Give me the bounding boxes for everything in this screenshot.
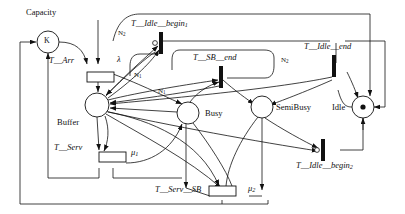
place-semibusy[interactable] (251, 96, 273, 118)
arc-buffer-to-tserv-b (104, 116, 108, 151)
inhibitor-dot-idlebegin2 (315, 148, 320, 153)
transition-label-t-arr: T__Arr (49, 56, 74, 65)
rate-label-mu1: μ1 (131, 148, 138, 157)
transition-t-sb-end[interactable] (219, 66, 223, 88)
transition-t-serv[interactable] (99, 152, 126, 162)
transition-label-t-idle-end: T__Idle__end (304, 42, 351, 51)
transition-label-t-idle-begin-1: T__Idle__begin1 (131, 19, 188, 28)
token-label-capacity: K (44, 37, 50, 45)
place-label-busy: Busy (205, 109, 222, 118)
transition-t-idle-end[interactable] (332, 55, 336, 77)
transition-t-arr[interactable] (87, 72, 114, 82)
place-buffer[interactable] (85, 93, 109, 117)
place-busy[interactable] (177, 102, 199, 124)
transition-t-idle-begin-1[interactable] (159, 32, 163, 54)
transition-label-t-serv: T__Serv (54, 143, 82, 152)
transition-t-idle-begin-2[interactable] (321, 139, 325, 161)
arc-weight-n1-upper: N1 (134, 72, 142, 79)
arc-weight-n2-right: N2 (281, 57, 289, 64)
place-label-semibusy: SemiBusy (276, 103, 311, 112)
arc-idlebegin2-to-idle-rail (340, 118, 363, 150)
place-label-capacity: Capacity (26, 8, 56, 17)
arc-busy-to-servsb (193, 123, 232, 186)
rate-label-lambda: λ (117, 55, 121, 64)
arc-weight-n2-left: N2 (118, 30, 126, 37)
arc-buffer-to-tserv (97, 117, 99, 150)
rate-label-mu2: μ2 (248, 184, 255, 193)
arc-weight-n1-lower: N1 (158, 88, 166, 95)
arc-busy-to-buffer (110, 108, 177, 112)
arc-serv-bottom-left (48, 168, 99, 178)
transition-label-t-sb-end: T__SB__end (193, 53, 236, 62)
arc-idleend-return (347, 72, 358, 98)
arc-buffer-to-servsb-a (108, 112, 219, 186)
place-label-buffer: Buffer (57, 118, 79, 127)
transition-label-t-serv-sb: T__Serv__SB (155, 185, 201, 194)
arc-tserv-rail (113, 168, 182, 178)
arc-servsb-to-capacity (20, 42, 36, 204)
arc-servsb-bottom-rail (20, 200, 268, 204)
inhibitor-dot-idlebegin1 (153, 41, 158, 46)
arc-semibusy-to-servsb (226, 117, 258, 186)
arc-buffer-to-servsb-b (106, 114, 221, 188)
transition-t-serv-sb[interactable] (209, 186, 236, 196)
place-label-idle: Idle (332, 103, 345, 112)
arc-busy-to-sbend (190, 82, 219, 102)
transition-label-t-idle-begin-2: T__Idle__begin2 (296, 161, 353, 170)
token-idle (360, 104, 365, 109)
